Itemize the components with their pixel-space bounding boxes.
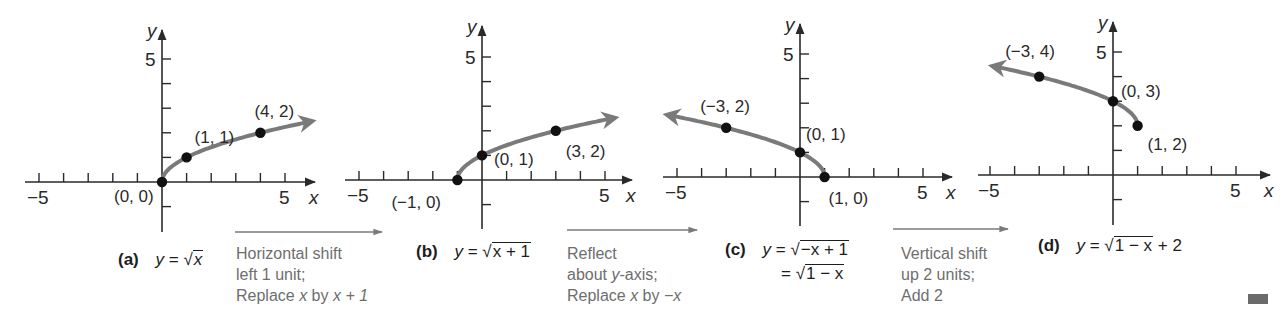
caption-equals: = [169, 250, 179, 269]
plot-point [452, 175, 462, 185]
x-tick-label: 5 [279, 187, 290, 208]
step-text: about [567, 266, 611, 283]
step-line: about y-axis; [567, 264, 681, 285]
y-tick-label: 5 [1096, 42, 1107, 63]
step-line: Add 2 [901, 285, 987, 306]
plot-point [721, 123, 731, 133]
graph-panel-d: −555xy(−3, 4)(0, 3)(1, 2) [978, 12, 1275, 225]
point-label: (0, 1) [806, 125, 846, 144]
plot-point [255, 128, 265, 138]
radicand: x + 1 [492, 242, 531, 260]
caption-tag: (d) [1038, 236, 1060, 255]
step-vertical-shift: Vertical shift up 2 units; Add 2 [901, 243, 987, 306]
x-tick-label: 5 [599, 185, 610, 206]
step-line: Replace x by x + 1 [236, 285, 368, 306]
y-axis-label: y [1096, 12, 1109, 33]
sqrt-icon: √ [183, 250, 192, 269]
plot-point [819, 172, 829, 182]
x-tick-label: −5 [347, 185, 369, 206]
step-line: left 1 unit; [236, 264, 368, 285]
radicand: 1 − x [1114, 236, 1153, 254]
step-text: Replace [567, 287, 630, 304]
step-line: Reflect [567, 243, 681, 264]
caption-b: (b) y = √x + 1 [416, 242, 531, 262]
function-curve [995, 67, 1138, 126]
step-reflect: Reflect about y-axis; Replace x by −x [567, 243, 681, 306]
point-label: (1, 1) [195, 128, 235, 147]
caption-d: (d) y = √1 − x + 2 [1038, 236, 1182, 256]
caption-c: (c) y = √−x + 1 [725, 240, 849, 260]
radicand: 1 − x [805, 264, 844, 282]
caption-c-line2: = √1 − x [781, 264, 844, 284]
x-axis-label: x [308, 187, 320, 208]
graph-panel-b: −555xy(−1, 0)(0, 1)(3, 2) [345, 16, 637, 229]
point-label: (4, 2) [254, 102, 294, 121]
x-tick-label: −5 [27, 187, 49, 208]
plot-point [1108, 96, 1118, 106]
y-tick-label: 5 [145, 49, 156, 70]
function-curve [670, 115, 825, 177]
caption-lhs: y [763, 240, 772, 259]
step-line: Vertical shift [901, 243, 987, 264]
sqrt-icon: √ [796, 264, 805, 283]
x-axis-label: x [625, 185, 637, 206]
caption-tag: (b) [416, 242, 438, 261]
point-label: (0, 0) [114, 187, 154, 206]
plot-point [551, 126, 561, 136]
x-axis-label: x [945, 182, 957, 203]
step-line: up 2 units; [901, 264, 987, 285]
y-axis-label: y [783, 14, 796, 35]
page-marker [1248, 294, 1268, 304]
step-expr: −x [664, 287, 681, 304]
plot-point [1132, 121, 1142, 131]
point-label: (1, 0) [829, 189, 869, 208]
step-horizontal-shift: Horizontal shift left 1 unit; Replace x … [236, 243, 368, 306]
y-axis-label: y [145, 20, 158, 41]
caption-a: (a) y = √x [118, 250, 203, 270]
x-tick-label: 5 [1230, 180, 1241, 201]
point-label: (0, 1) [494, 150, 534, 169]
step-line: Horizontal shift [236, 243, 368, 264]
plot-point [181, 152, 191, 162]
caption-equals: = [468, 242, 478, 261]
x-tick-label: 5 [917, 182, 928, 203]
point-label: (3, 2) [566, 142, 606, 161]
x-tick-label: −5 [978, 180, 1000, 201]
y-tick-label: 5 [783, 44, 794, 65]
point-label: (1, 2) [1148, 135, 1188, 154]
step-expr: x + 1 [333, 287, 368, 304]
caption-equals: = [776, 240, 786, 259]
transformation-figure: −555xy(0, 0)(1, 1)(4, 2)−555xy(−1, 0)(0,… [0, 0, 1283, 330]
plot-point [795, 147, 805, 157]
y-tick-label: 5 [465, 47, 476, 68]
x-tick-label: −5 [665, 182, 687, 203]
caption-tag: (c) [725, 240, 746, 259]
caption-equals: = [1090, 236, 1100, 255]
caption-lhs: y [156, 250, 165, 269]
step-text: -axis; [619, 266, 657, 283]
step-var: x [299, 287, 307, 304]
graph-panel-c: −555xy(−3, 2)(0, 1)(1, 0) [663, 14, 957, 226]
point-label: (−3, 2) [700, 97, 750, 116]
caption-tail: + 2 [1158, 236, 1182, 255]
sqrt-icon: √ [1104, 236, 1113, 255]
caption-lhs: y [1076, 236, 1085, 255]
step-text: by [307, 287, 333, 304]
sqrt-icon: √ [790, 240, 799, 259]
caption-tag: (a) [118, 250, 139, 269]
step-var: x [630, 287, 638, 304]
step-text: by [638, 287, 664, 304]
step-text: Replace [236, 287, 299, 304]
sqrt-icon: √ [482, 242, 491, 261]
plot-point [477, 150, 487, 160]
function-curve [162, 122, 310, 182]
plot-point [1034, 71, 1044, 81]
radicand: x [193, 250, 204, 268]
step-line: Replace x by −x [567, 285, 681, 306]
y-axis-label: y [465, 16, 478, 37]
caption-lhs: y [454, 242, 463, 261]
x-axis-label: x [1263, 180, 1275, 201]
radicand: −x + 1 [800, 240, 849, 258]
point-label: (−1, 0) [391, 193, 441, 212]
point-label: (0, 3) [1121, 82, 1161, 101]
